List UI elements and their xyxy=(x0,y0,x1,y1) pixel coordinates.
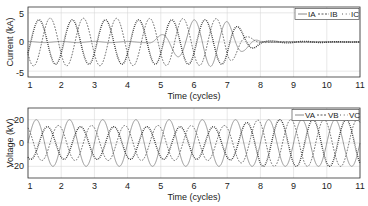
y-tick: 0 xyxy=(19,138,24,148)
x-tick: 4 xyxy=(125,80,130,90)
current-x-ticks: 1234567891011 xyxy=(27,80,364,90)
x-tick: 2 xyxy=(59,80,64,90)
current-legend: IA IB IC xyxy=(295,9,359,20)
x-tick: 1 xyxy=(27,80,32,90)
x-tick: 1 xyxy=(27,181,32,191)
figure: 5 0 -5 1234567891011 Time (cycles) Curre… xyxy=(0,0,368,206)
x-tick: 10 xyxy=(322,181,332,191)
x-tick: 8 xyxy=(258,181,263,191)
x-tick: 4 xyxy=(125,181,130,191)
legend-label-vb: VB xyxy=(328,111,339,120)
current-y-ticks: 5 0 -5 xyxy=(16,9,24,78)
x-tick: 10 xyxy=(322,80,332,90)
x-tick: 2 xyxy=(59,181,64,191)
y-tick: 20 xyxy=(14,115,24,125)
x-tick: 7 xyxy=(225,181,230,191)
voltage-x-label: Time (cycles) xyxy=(167,192,220,202)
x-tick: 11 xyxy=(355,181,364,191)
x-tick: 5 xyxy=(158,80,163,90)
x-tick: 7 xyxy=(225,80,230,90)
current-y-label: Current (kA) xyxy=(5,17,15,66)
legend-label-ib: IB xyxy=(330,10,338,19)
voltage-y-label: Voltage (kV) xyxy=(5,118,15,167)
y-tick: 5 xyxy=(19,9,24,19)
legend-label-ia: IA xyxy=(308,10,316,19)
y-tick: 0 xyxy=(19,37,24,47)
x-tick: 9 xyxy=(291,80,296,90)
voltage-legend: VA VB VC xyxy=(292,110,360,121)
x-tick: 11 xyxy=(355,80,364,90)
current-x-label: Time (cycles) xyxy=(167,91,220,101)
x-tick: 6 xyxy=(191,181,196,191)
x-tick: 9 xyxy=(291,181,296,191)
x-tick: 8 xyxy=(258,80,263,90)
x-tick: 3 xyxy=(92,80,97,90)
voltage-x-ticks: 1234567891011 xyxy=(27,181,364,191)
x-tick: 6 xyxy=(191,80,196,90)
legend-label-vc: VC xyxy=(349,111,360,120)
y-tick: -5 xyxy=(16,68,24,78)
x-tick: 3 xyxy=(92,181,97,191)
legend-label-ic: IC xyxy=(351,10,359,19)
current-plot: 5 0 -5 1234567891011 Time (cycles) Curre… xyxy=(5,7,365,101)
x-tick: 5 xyxy=(158,181,163,191)
legend-label-va: VA xyxy=(305,111,316,120)
voltage-plot: 20 0 -20 1234567891011 Time (cycles) Vol… xyxy=(5,108,365,202)
